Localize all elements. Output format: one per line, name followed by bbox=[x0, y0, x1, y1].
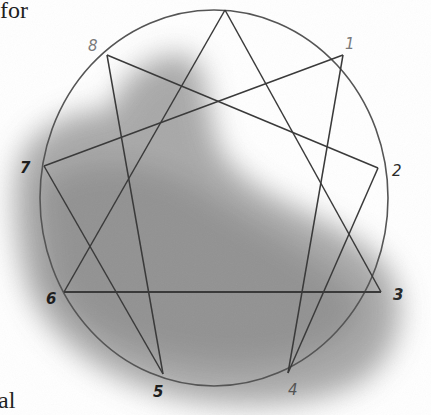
label-point-1: 1 bbox=[345, 35, 355, 53]
label-point-6: 6 bbox=[46, 290, 56, 308]
label-point-7: 7 bbox=[20, 159, 31, 177]
label-point-4: 4 bbox=[288, 381, 298, 399]
label-point-8: 8 bbox=[88, 37, 98, 55]
label-point-5: 5 bbox=[153, 383, 163, 401]
label-point-2: 2 bbox=[392, 162, 402, 180]
enneagram-diagram: 1 2 3 4 5 6 7 8 bbox=[0, 0, 431, 415]
paper-grain bbox=[0, 0, 431, 415]
label-point-3: 3 bbox=[393, 286, 403, 304]
